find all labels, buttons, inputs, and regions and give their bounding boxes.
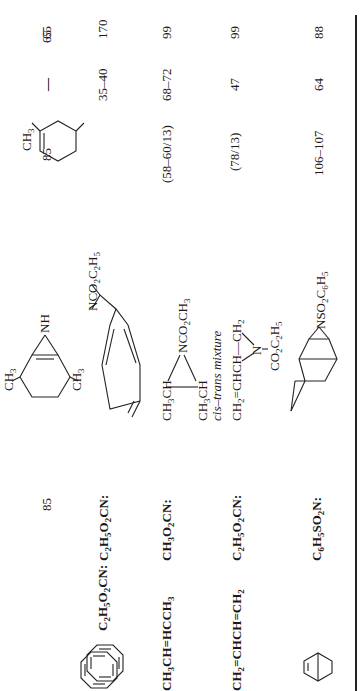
reagent-formula-row4: C2H5O2CN: (230, 495, 243, 561)
row4-value-c: 99 (228, 26, 241, 39)
row5-value-a: 106–107 (312, 131, 325, 177)
row1-value-c: 170 (96, 20, 109, 40)
norbornene-reactant-icon (298, 649, 338, 689)
row3-value-a: (58–60/13) (160, 125, 173, 183)
row4-value-b: 47 (228, 78, 241, 91)
product-label-nso2c6h5: NSO2C6H5 (314, 271, 327, 329)
reagent-formula-row3: CH3O2CN: (160, 499, 173, 561)
reactant-butene: CH3CH=HCCH3 (160, 597, 173, 691)
reagent-formula-row5: C6H5SO2N: (310, 497, 323, 561)
row3-value-c: 99 (160, 26, 173, 39)
product-note-cis-trans: cis–trans mixture (210, 331, 223, 421)
aziridine-n-lines-icon (240, 325, 280, 365)
row5-value-c: 88 (312, 26, 325, 39)
product-label-nco2c2h5: NCO2C2H5 (86, 252, 99, 311)
row4-value-a: (78/13) (228, 133, 241, 171)
table-bottom-rule (355, 15, 357, 691)
reagent-formula: C2H5O2CN: (97, 495, 110, 561)
reactant-butadiene: CH2=CHCH=CH2 (230, 589, 243, 691)
cyclooctatetraene-reactant-icon (80, 651, 118, 689)
row5-value-b: 64 (312, 78, 325, 91)
row1-extra-value: 35–40 (96, 69, 109, 102)
product-label-nco2ch3: NCO2CH3 (176, 298, 189, 353)
value-col-a: 85 (40, 498, 53, 511)
reagent-formula-row1: C2H5O2CN: (96, 565, 109, 631)
row2-value-c: 65 (40, 26, 53, 39)
row2-value-b: — (40, 78, 53, 91)
benzazirine-ring-icon (12, 331, 82, 411)
rotated-table-page: C2H5O2CN: CH3 85 — 65 CH3 NH CH3 85 — 65… (0, 0, 360, 691)
row3-value-b: 68–72 (160, 69, 173, 102)
aziridine-bond-lines-icon (166, 351, 202, 391)
norbornane-aziridine-icon (285, 321, 345, 411)
row2-value-a: 85 (40, 148, 53, 161)
